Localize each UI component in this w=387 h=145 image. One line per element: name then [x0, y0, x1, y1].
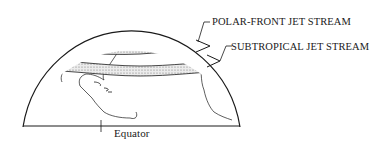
subtropical-jet-label: SUBTROPICAL JET STREAM	[231, 41, 369, 52]
equator-label: Equator	[114, 127, 150, 139]
subtropical-arrow-icon	[207, 55, 220, 67]
polar-front-leader	[198, 22, 210, 42]
polar-front-jet-label: POLAR-FRONT JET STREAM	[212, 16, 351, 27]
